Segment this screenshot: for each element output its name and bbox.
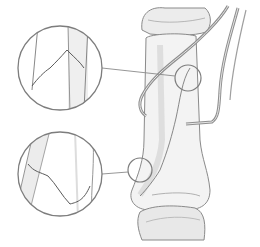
upper-magnified-view — [18, 20, 102, 120]
fracture-illustration — [0, 0, 260, 247]
lower-joint — [138, 206, 205, 240]
illustration-canvas — [0, 0, 260, 247]
lower-magnified-view — [18, 130, 102, 220]
upper-joint — [142, 8, 211, 36]
lower-leader-line — [102, 172, 128, 174]
